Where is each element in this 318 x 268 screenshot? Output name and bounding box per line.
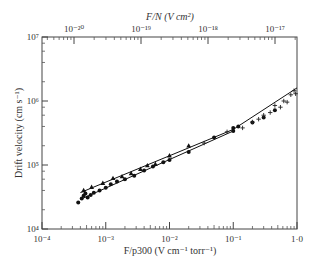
bottom-x-axis: 10⁻⁴10⁻³10⁻²10⁻¹1·0	[34, 222, 304, 244]
circle-point	[273, 108, 277, 112]
y-tick-label: 10⁷	[27, 32, 39, 42]
circle-point	[142, 169, 146, 173]
circle-point	[92, 191, 96, 195]
plot-frame	[42, 37, 297, 229]
plot-border	[42, 37, 297, 229]
triangle-point	[186, 143, 191, 147]
y-tick-label: 10⁵	[27, 160, 39, 170]
top-x-axis: 10⁻²⁰10⁻¹⁹10⁻¹⁸10⁻¹⁷	[47, 24, 295, 44]
top-tick-label: 10⁻²⁰	[64, 24, 84, 34]
circle-point	[168, 158, 172, 162]
y-tick-label: 10⁴	[27, 224, 39, 234]
data-points	[76, 88, 298, 204]
circle-point	[76, 200, 80, 204]
circle-point	[98, 188, 102, 192]
y-tick-label: 10⁶	[27, 96, 39, 106]
drift-velocity-chart: 10⁻⁴10⁻³10⁻²10⁻¹1·0 10⁻²⁰10⁻¹⁹10⁻¹⁸10⁻¹⁷…	[0, 0, 318, 268]
x-tick-label: 10⁻⁴	[34, 234, 51, 244]
circle-point	[231, 126, 235, 130]
y-axis-label: Drift velocity (cm s⁻¹)	[13, 88, 25, 178]
top-tick-label: 10⁻¹⁹	[131, 24, 151, 34]
circle-point	[212, 135, 216, 139]
x-tick-label: 10⁻²	[161, 234, 178, 244]
circle-point	[115, 180, 119, 184]
x-tick-label: 10⁻¹	[225, 234, 242, 244]
top-tick-label: 10⁻¹⁷	[265, 24, 285, 34]
circle-point	[104, 186, 108, 190]
top-tick-label: 10⁻¹⁸	[198, 24, 218, 34]
circle-point	[109, 182, 113, 186]
x-tick-label: 10⁻³	[98, 234, 115, 244]
top-axis-label: F/N (V cm²)	[145, 11, 194, 23]
circle-point	[236, 124, 240, 128]
y-axis: 10⁴10⁵10⁶10⁷	[27, 32, 48, 234]
x-axis-label: F/p300 (V cm⁻¹ torr⁻¹)	[124, 245, 217, 257]
x-tick-label: 1·0	[291, 234, 303, 244]
circle-point	[161, 160, 165, 164]
circle-point	[187, 150, 191, 154]
